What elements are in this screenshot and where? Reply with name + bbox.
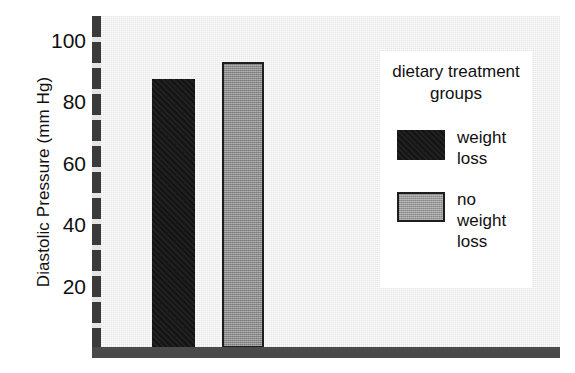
legend-label-no-weight-loss: no weight loss xyxy=(457,189,506,252)
legend-swatch-no-weight-loss xyxy=(397,192,445,222)
legend: dietary treatment groups weight loss no … xyxy=(380,51,532,288)
y-axis-title: Diastolic Pressure (mm Hg) xyxy=(34,52,54,312)
legend-item-no-weight-loss: no weight loss xyxy=(380,189,532,252)
legend-label-weight-loss: weight loss xyxy=(457,127,506,169)
bar-weight-loss xyxy=(152,79,195,348)
legend-swatch-weight-loss xyxy=(397,130,445,160)
bar-no-weight-loss xyxy=(222,62,264,348)
legend-title: dietary treatment groups xyxy=(380,61,532,105)
bar-chart-figure: 100 80 60 40 20 Diastolic Pressure (mm H… xyxy=(0,0,575,373)
y-axis-line xyxy=(92,16,101,354)
y-tick-100: 100 xyxy=(40,30,86,51)
legend-item-weight-loss: weight loss xyxy=(380,127,532,169)
x-axis-baseline xyxy=(92,347,560,358)
